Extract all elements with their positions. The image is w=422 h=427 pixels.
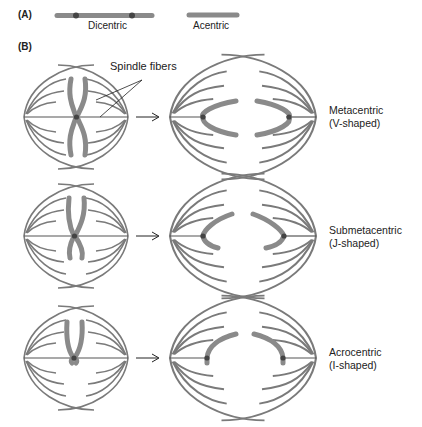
submetacentric-label: Submetacentric (J-shaped): [329, 224, 402, 249]
metacentric-shape: (V-shaped): [329, 117, 383, 130]
acrocentric-type: Acrocentric: [329, 346, 382, 359]
spindle-fibers-label: Spindle fibers: [110, 60, 177, 72]
acentric-label: Acentric: [193, 20, 229, 32]
metacentric-label: Metacentric (V-shaped): [329, 104, 383, 129]
submetacentric-type: Submetacentric: [329, 224, 402, 237]
acrocentric-shape: (I-shaped): [329, 359, 382, 372]
submetacentric-shape: (J-shaped): [329, 237, 402, 250]
acrocentric-label: Acrocentric (I-shaped): [329, 346, 382, 371]
row-metacentric: [24, 55, 316, 180]
row-acrocentric: [24, 296, 316, 421]
dicentric-chromosome: [57, 13, 152, 19]
row-submetacentric: [24, 174, 316, 299]
metacentric-type: Metacentric: [329, 104, 383, 117]
dicentric-label: Dicentric: [88, 20, 127, 32]
